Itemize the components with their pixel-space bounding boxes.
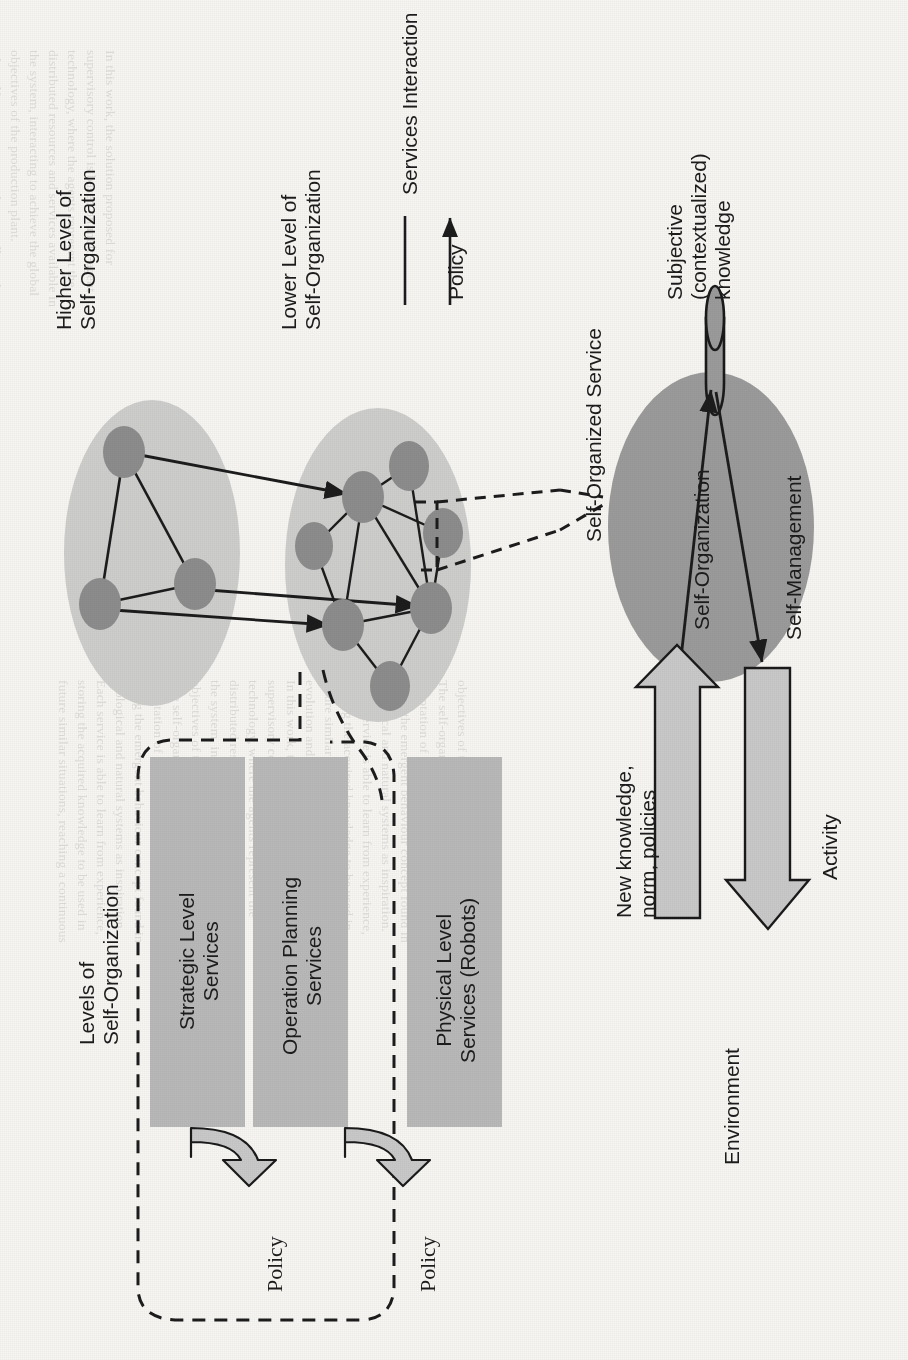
service-box-label-physical: Physical Level Services (Robots) (432, 898, 480, 1063)
label-self-organized-service: Self-Organized Service (582, 328, 606, 542)
service-box-label-strategic: Strategic Level Services (175, 893, 223, 1030)
label-self-organization-arrow: Self-Organization (690, 469, 714, 630)
label-activity: Activity (818, 814, 842, 880)
figure-vector-layer (0, 0, 908, 1360)
legend-label-services-interaction: Services Interaction (398, 13, 422, 195)
activity-block-arrow (726, 668, 809, 929)
policy-label-1: Policy (262, 1236, 287, 1292)
label-environment: Environment (720, 1048, 744, 1165)
policy-label-2: Policy (415, 1236, 440, 1292)
subjective-knowledge-cylinder (706, 286, 724, 415)
label-subjective-contextualized-knowledge: Subjective (contextualized) knowledge (663, 153, 735, 300)
label-levels-of-self-organization: Levels of Self-Organization (75, 884, 123, 1045)
label-new-knowledge-norm-policies: New knowledge, norm, policies (612, 765, 660, 918)
label-self-management-arrow: Self-Management (782, 476, 806, 640)
label-lower-level-of-self-organization: Lower Level of Self-Organization (277, 169, 325, 330)
higher-level-cluster-oval (64, 400, 240, 706)
figure-self-organization-architecture: Higher Level of Self-Organization Lower … (0, 0, 908, 1360)
legend-label-policy: Policy (444, 245, 468, 300)
label-higher-level-of-self-organization: Higher Level of Self-Organization (52, 169, 100, 330)
service-box-label-operation-planning: Operation Planning Services (278, 877, 326, 1055)
